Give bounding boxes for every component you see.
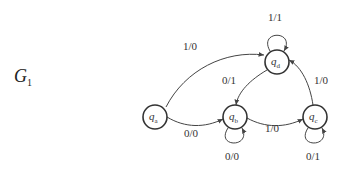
state-diagram: G1 1/0 0/0 0/0 1/0 0/1 1/0 0/1 1/1 qa qb…: [0, 0, 348, 171]
edge-qd-qd: [268, 35, 287, 51]
edge-label-qb-qc: 1/0: [265, 122, 280, 134]
edge-qc-qd: [289, 60, 313, 105]
edge-qc-qc: [305, 128, 324, 143]
edge-label-qa-qb: 0/0: [184, 127, 199, 139]
edge-label-qd-qb: 0/1: [222, 74, 236, 86]
edge-label-qc-qd: 1/0: [314, 74, 329, 86]
state-qd: qd: [265, 50, 289, 74]
graph-title: G1: [14, 66, 32, 88]
edge-qd-qb: [236, 70, 267, 105]
state-qb: qb: [223, 105, 247, 129]
edge-qa-qd: [166, 54, 264, 107]
edge-label-qd-qd: 1/1: [268, 11, 282, 23]
edge-label-qc-qc: 0/1: [306, 150, 320, 162]
state-qa: qa: [143, 105, 167, 129]
edge-qb-qb: [225, 128, 244, 143]
edge-label-qb-qb: 0/0: [225, 150, 240, 162]
edge-label-qa-qd: 1/0: [183, 40, 198, 52]
state-qc: qc: [303, 105, 327, 129]
edge-qa-qb: [167, 117, 223, 126]
